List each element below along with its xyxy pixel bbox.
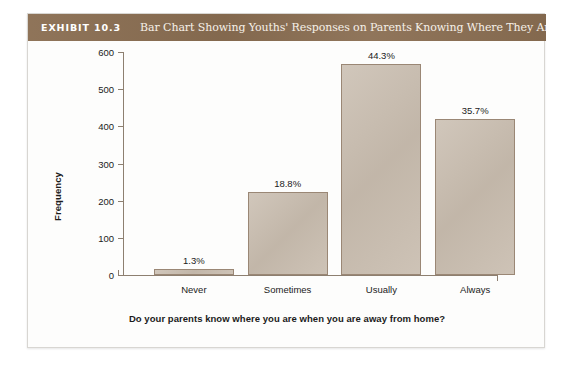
x-axis-tick-label: Sometimes <box>238 284 338 295</box>
y-axis-tick-label: 600 <box>81 52 114 53</box>
exhibit-number-label: EXHIBIT 10.3 <box>41 22 121 33</box>
chart-area: Frequency 0100200300400500600 1.3%18.8%4… <box>28 41 546 348</box>
bar-value-label: 44.3% <box>341 50 421 61</box>
x-axis-line <box>118 275 498 276</box>
bar <box>248 192 328 275</box>
x-axis-title: Do your parents know where you are when … <box>28 313 546 324</box>
y-axis-tick <box>118 52 123 53</box>
x-axis-tick-label: Never <box>144 284 244 295</box>
y-axis-title: Frequency <box>52 152 63 242</box>
y-axis-tick-label: 300 <box>81 164 114 165</box>
y-axis-tick <box>118 238 123 239</box>
y-axis-tick-label: 200 <box>81 201 114 202</box>
x-axis-right-cap <box>497 275 498 281</box>
x-axis-tick-label: Always <box>425 284 525 295</box>
x-axis-tick-label: Usually <box>331 284 431 295</box>
y-axis-line <box>123 52 124 276</box>
y-axis-tick <box>118 89 123 90</box>
y-axis-tick <box>118 201 123 202</box>
y-axis-tick-label: 100 <box>81 238 114 239</box>
bar <box>154 269 234 275</box>
bar-value-label: 18.8% <box>248 178 328 189</box>
y-axis-tick <box>118 164 123 165</box>
y-axis-tick-label: 400 <box>81 126 114 127</box>
bar-value-label: 1.3% <box>154 255 234 266</box>
bar-value-label: 35.7% <box>435 105 515 116</box>
y-axis-tick-label: 0 <box>81 275 114 276</box>
bar <box>341 64 421 275</box>
exhibit-panel: EXHIBIT 10.3 Bar Chart Showing Youths' R… <box>27 13 545 348</box>
y-axis-tick <box>118 275 123 276</box>
exhibit-header: EXHIBIT 10.3 Bar Chart Showing Youths' R… <box>28 14 546 41</box>
bar <box>435 119 515 275</box>
y-axis-tick <box>118 126 123 127</box>
y-axis-tick-label: 500 <box>81 89 114 90</box>
exhibit-title: Bar Chart Showing Youths' Responses on P… <box>140 21 546 34</box>
plot-region: 0100200300400500600 1.3%18.8%44.3%35.7% … <box>123 52 498 275</box>
